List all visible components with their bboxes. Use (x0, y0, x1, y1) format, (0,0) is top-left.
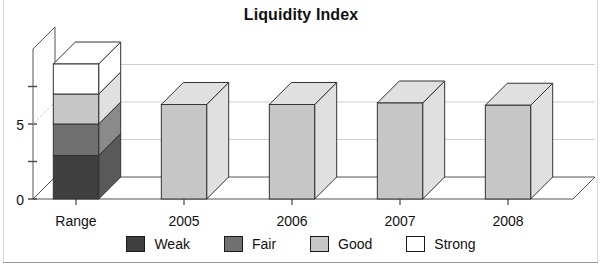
y-axis-tick-label: 0 (16, 192, 24, 208)
legend-label: Weak (154, 236, 190, 252)
bar-column (269, 83, 336, 200)
x-axis-category-label: 2008 (492, 213, 523, 229)
chart-plot-area: 05Range2005200620072008 (0, 0, 602, 274)
legend-swatch-icon (126, 236, 145, 252)
chart-legend: WeakFairGoodStrong (0, 236, 602, 252)
chart-container: Liquidity Index 05Range2005200620072008 … (0, 0, 602, 274)
legend-label: Fair (252, 236, 276, 252)
frame-left-border (3, 0, 4, 263)
x-axis-category-label: Range (55, 213, 96, 229)
legend-item-good[interactable]: Good (310, 236, 372, 252)
legend-label: Good (338, 236, 372, 252)
bar-column (377, 81, 444, 199)
bar-column (485, 83, 552, 199)
bar-column (53, 42, 120, 199)
bar-segment-good (161, 83, 228, 200)
x-axis-category-label: 2005 (168, 213, 199, 229)
legend-swatch-icon (406, 236, 425, 252)
x-axis-category-label: 2007 (384, 213, 415, 229)
bar-column (161, 83, 228, 200)
bar-segment-good (269, 83, 336, 200)
bar-segment-good (377, 81, 444, 199)
frame-bottom-border (3, 262, 598, 263)
legend-item-fair[interactable]: Fair (224, 236, 276, 252)
frame-right-border (597, 0, 598, 263)
legend-swatch-icon (224, 236, 243, 252)
legend-label: Strong (434, 236, 475, 252)
legend-item-strong[interactable]: Strong (406, 236, 475, 252)
bar-segment-good (485, 83, 552, 199)
x-axis-category-label: 2006 (276, 213, 307, 229)
bars-layer (53, 42, 552, 199)
legend-item-weak[interactable]: Weak (126, 236, 190, 252)
y-axis-tick-label: 5 (16, 117, 24, 133)
legend-swatch-icon (310, 236, 329, 252)
